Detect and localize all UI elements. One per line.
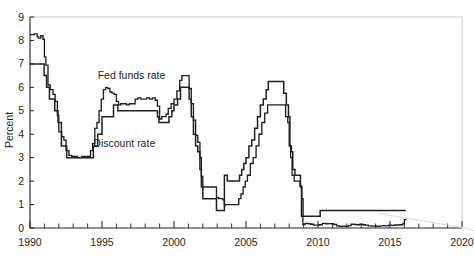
x-tick-label: 2010 [306,236,330,248]
x-tick-label: 2015 [378,236,402,248]
chart-root: 0123456789 1990199520002005201020152020 … [0,0,474,260]
y-axis-title: Percent [3,112,15,148]
y-tick-label: 3 [18,151,24,163]
chart-background [0,0,474,260]
x-tick-label: 2000 [162,236,186,248]
annotation-discount-rate: Discount rate [93,137,155,149]
y-tick-label: 4 [18,128,24,140]
y-tick-label: 0 [18,222,24,234]
y-tick-label: 6 [18,81,24,93]
x-tick-label: 1990 [18,236,42,248]
x-tick-label: 2020 [450,236,474,248]
x-tick-label: 1995 [90,236,114,248]
interest-rate-line-chart: 0123456789 1990199520002005201020152020 … [0,0,474,260]
y-tick-label: 9 [18,11,24,23]
annotation-fed-funds-rate: Fed funds rate [98,69,166,81]
y-tick-label: 8 [18,34,24,46]
y-tick-label: 2 [18,175,24,187]
clipped-header-strip [0,0,474,9]
y-tick-label: 7 [18,57,24,69]
y-tick-label: 5 [18,104,24,116]
x-tick-label: 2005 [234,236,258,248]
y-tick-label: 1 [18,198,24,210]
